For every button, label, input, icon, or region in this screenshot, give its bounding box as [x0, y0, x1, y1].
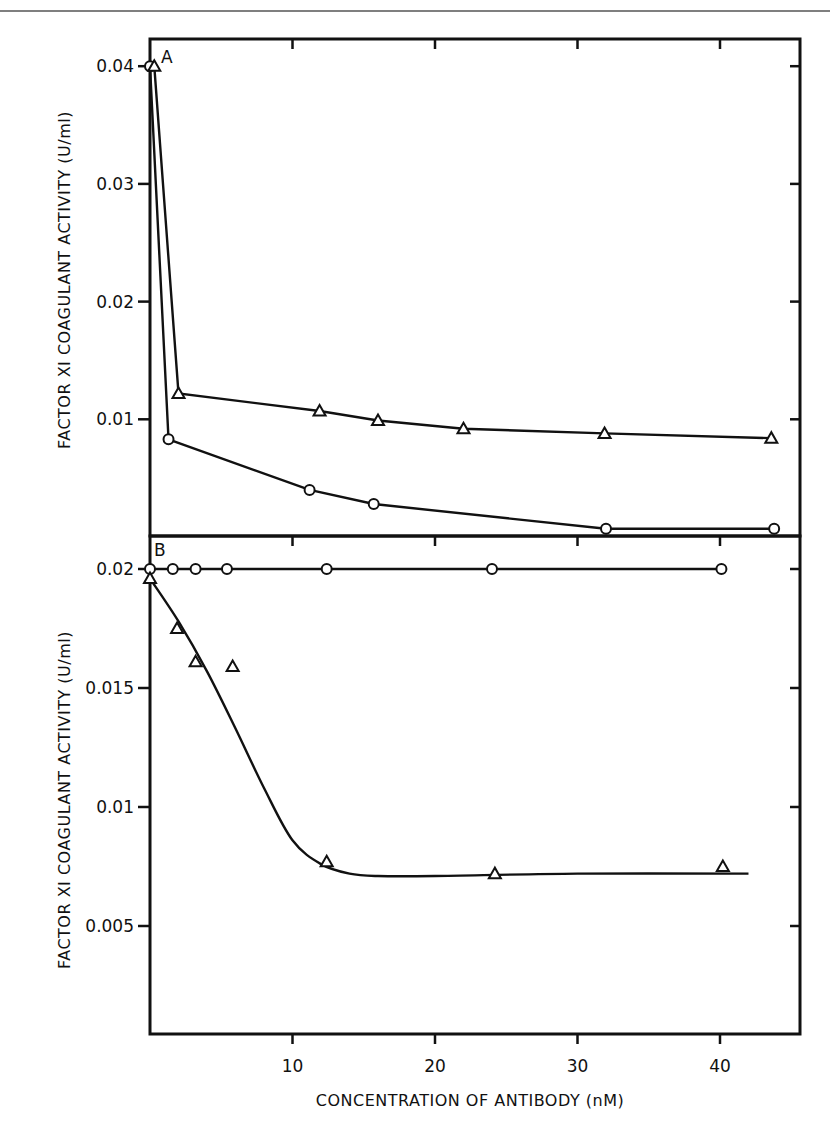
circle-marker — [322, 564, 332, 574]
x-tick-label: 10 — [282, 1056, 304, 1076]
y-tick-label: 0.01 — [96, 409, 134, 429]
y-tick-label: 0.005 — [85, 916, 134, 936]
y-axis-title-a: FACTOR XI COAGULANT ACTIVITY (U/ml) — [55, 111, 74, 449]
x-axis-title: CONCENTRATION OF ANTIBODY (nM) — [316, 1091, 624, 1110]
circle-marker — [487, 564, 497, 574]
circle-marker — [769, 524, 779, 534]
panel-b: 102030400.0050.010.0150.02 — [85, 536, 800, 1076]
panel-a-letter: A — [161, 47, 173, 67]
panel-a: 0.010.020.030.04 — [96, 39, 800, 536]
y-tick-label: 0.02 — [96, 292, 134, 312]
circle-marker — [369, 499, 379, 509]
series-line-triangle — [154, 66, 771, 438]
x-tick-label: 40 — [709, 1056, 731, 1076]
triangle-marker — [227, 661, 239, 672]
plot-frame — [150, 39, 800, 536]
series-line-triangle — [150, 579, 749, 877]
y-tick-label: 0.03 — [96, 174, 134, 194]
y-tick-label: 0.04 — [96, 56, 134, 76]
circle-marker — [164, 434, 174, 444]
figure: 0.010.020.030.04 102030400.0050.010.0150… — [0, 0, 830, 1134]
plot-frame — [150, 536, 800, 1034]
y-axis-title-b: FACTOR XI COAGULANT ACTIVITY (U/ml) — [55, 631, 74, 969]
y-tick-label: 0.015 — [85, 678, 134, 698]
triangle-marker — [173, 387, 185, 398]
triangle-marker — [489, 868, 501, 879]
y-tick-label: 0.02 — [96, 559, 134, 579]
panel-b-letter: B — [154, 540, 166, 560]
circle-marker — [222, 564, 232, 574]
triangle-marker — [321, 856, 333, 867]
circle-marker — [601, 524, 611, 534]
triangle-marker — [144, 573, 156, 584]
circle-marker — [191, 564, 201, 574]
x-tick-label: 30 — [567, 1056, 589, 1076]
circle-marker — [716, 564, 726, 574]
triangle-marker — [717, 861, 729, 872]
circle-marker — [305, 485, 315, 495]
series-line-circle — [150, 66, 774, 529]
x-tick-label: 20 — [424, 1056, 446, 1076]
circle-marker — [168, 564, 178, 574]
y-tick-label: 0.01 — [96, 797, 134, 817]
